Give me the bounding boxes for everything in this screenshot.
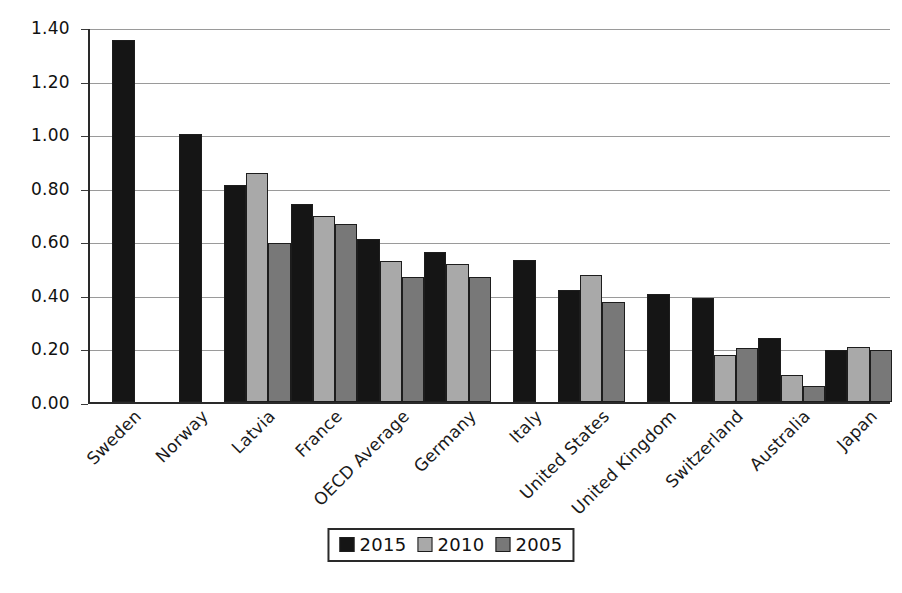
bar-group: [224, 29, 291, 402]
bar: [179, 134, 202, 402]
legend-label: 2005: [516, 534, 563, 555]
y-tick-mark: [81, 350, 88, 351]
bar: [647, 294, 670, 402]
legend-swatch-icon: [339, 537, 354, 552]
bar-group: [291, 29, 358, 402]
x-tick-label: Norway: [152, 406, 213, 467]
bar-group: [357, 29, 424, 402]
bar: [291, 204, 313, 402]
bar-group: [625, 29, 692, 402]
bar-group: [558, 29, 625, 402]
bar-group: [90, 29, 157, 402]
bar: [112, 40, 135, 402]
y-tick-mark: [81, 243, 88, 244]
bar: [781, 375, 803, 402]
bar: [513, 260, 536, 402]
y-tick-label: 0.20: [8, 339, 70, 359]
bar-group: [692, 29, 759, 402]
x-tick-label: Germany: [409, 406, 479, 476]
legend-label: 2010: [437, 534, 484, 555]
y-tick-mark: [81, 83, 88, 84]
y-tick-mark: [81, 190, 88, 191]
bar-group: [424, 29, 491, 402]
chart-legend: 201520102005: [327, 528, 574, 562]
bar: [558, 290, 580, 403]
bar: [335, 224, 357, 402]
bar: [758, 338, 780, 402]
bar: [380, 261, 402, 402]
bar: [224, 185, 246, 402]
bar-group: [758, 29, 825, 402]
y-tick-label: 0.40: [8, 286, 70, 306]
bar-chart: 1.401.201.000.800.600.400.200.00 SwedenN…: [0, 0, 902, 593]
legend-item: 2010: [417, 534, 484, 555]
bar: [692, 298, 714, 402]
y-tick-label: 0.60: [8, 232, 70, 252]
bar: [714, 355, 736, 402]
x-tick-label: Japan: [832, 406, 880, 454]
x-tick-label: Latvia: [228, 406, 280, 458]
bar-group: [825, 29, 892, 402]
bar: [469, 277, 491, 402]
bar: [402, 277, 424, 402]
bar: [246, 173, 268, 402]
x-tick-label: Sweden: [83, 406, 146, 469]
bar: [803, 386, 825, 402]
x-axis-category-labels: SwedenNorwayLatviaFranceOECD AverageGerm…: [88, 406, 890, 526]
bar: [736, 348, 758, 402]
bar-group: [157, 29, 224, 402]
legend-swatch-icon: [417, 537, 432, 552]
bar: [870, 350, 892, 402]
y-tick-mark: [81, 297, 88, 298]
x-tick-label: France: [291, 406, 346, 461]
bar: [825, 350, 847, 402]
legend-label: 2015: [359, 534, 406, 555]
y-tick-label: 0.00: [8, 393, 70, 413]
bar: [268, 243, 290, 402]
y-tick-label: 1.00: [8, 125, 70, 145]
y-tick-mark: [81, 136, 88, 137]
bar: [580, 275, 602, 402]
x-tick-label: Italy: [506, 406, 547, 447]
y-tick-label: 1.20: [8, 72, 70, 92]
legend-item: 2015: [339, 534, 406, 555]
bar: [847, 347, 869, 402]
legend-swatch-icon: [496, 537, 511, 552]
bar-group: [491, 29, 558, 402]
x-tick-label: Australia: [745, 406, 814, 475]
bar: [357, 239, 379, 402]
y-tick-mark: [81, 29, 88, 30]
y-tick-label: 1.40: [8, 18, 70, 38]
y-tick-mark: [81, 404, 88, 405]
legend-item: 2005: [496, 534, 563, 555]
bar: [313, 216, 335, 402]
bar: [424, 252, 446, 402]
bar: [446, 264, 468, 402]
bar: [602, 302, 624, 402]
plot-area: [88, 29, 890, 404]
y-tick-label: 0.80: [8, 179, 70, 199]
bars-layer: [90, 29, 890, 402]
